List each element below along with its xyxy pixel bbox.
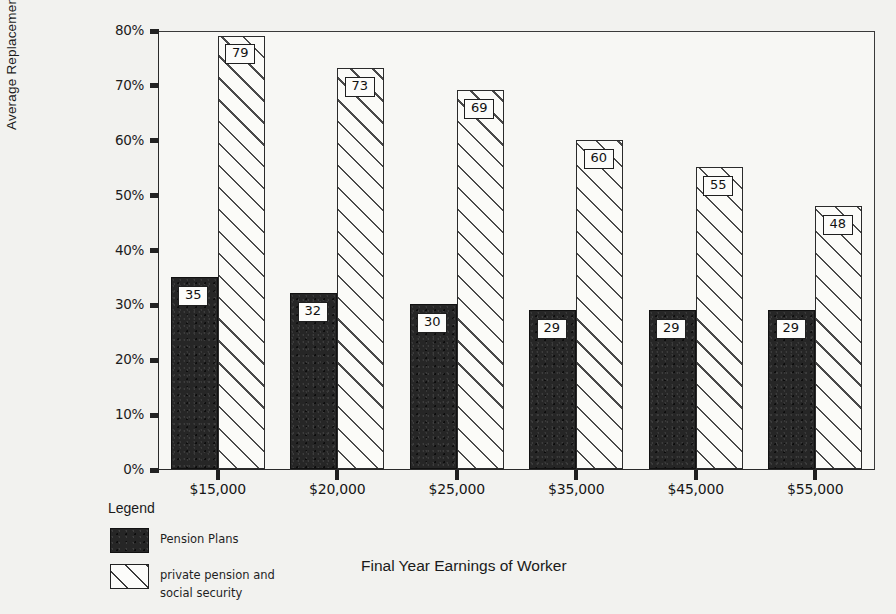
legend-label-pension-plans: Pension Plans [160,530,239,548]
y-axis-title: Average Replacement Rate [4,0,19,130]
value-label: 69 [464,99,494,119]
bar-private-pension-social-security-3 [576,140,623,469]
y-tick-label: 40% [0,242,144,258]
value-label: 60 [584,149,614,169]
x-tick-mark [335,470,339,480]
bar-private-pension-social-security-2 [457,90,504,469]
y-tick-mark [150,138,159,143]
bar-private-pension-social-security-1 [337,68,384,469]
y-tick-label: 30% [0,296,144,312]
value-label: 29 [656,319,686,339]
bar-chart: Average Replacement Rate 0%10%20%30%40%5… [0,0,896,614]
x-tick-mark [694,470,698,480]
value-label: 32 [298,302,328,322]
x-tick-label-3: $35,000 [548,481,605,497]
y-tick-label: 10% [0,406,144,422]
plot-inner [159,32,874,469]
y-tick-mark [150,83,159,88]
y-tick-label: 50% [0,187,144,203]
y-tick-label: 70% [0,77,144,93]
x-tick-mark [455,470,459,480]
legend-title: Legend [108,500,155,516]
y-tick-label: 0% [0,461,144,477]
plot-area [158,31,875,470]
bar-private-pension-social-security-4 [696,167,743,469]
x-tick-label-0: $15,000 [190,481,247,497]
x-tick-label-4: $45,000 [668,481,725,497]
y-tick-label: 80% [0,22,144,38]
y-tick-label: 20% [0,351,144,367]
x-tick-mark [574,470,578,480]
legend-swatch-pension-plans [110,528,149,553]
legend-label-private-pension-social-security: private pension and social security [160,566,275,602]
value-label: 30 [417,313,447,333]
x-tick-label-2: $25,000 [429,481,486,497]
y-tick-label: 60% [0,132,144,148]
value-label: 55 [703,176,733,196]
bar-private-pension-social-security-0 [218,36,265,470]
y-tick-mark [150,303,159,308]
y-tick-mark [150,413,159,418]
y-tick-mark [150,468,159,473]
value-label: 73 [345,77,375,97]
y-tick-mark [150,193,159,198]
x-axis-title: Final Year Earnings of Worker [361,557,567,575]
x-tick-mark [216,470,220,480]
value-label: 79 [225,44,255,64]
x-tick-label-5: $55,000 [787,481,844,497]
x-tick-label-1: $20,000 [309,481,366,497]
legend-swatch-private-pension-social-security [110,564,149,589]
bar-private-pension-social-security-5 [815,206,862,469]
y-tick-mark [150,358,159,363]
y-tick-mark [150,248,159,253]
value-label: 29 [776,319,806,339]
value-label: 48 [823,215,853,235]
x-tick-mark [813,470,817,480]
y-tick-mark [150,29,159,34]
value-label: 35 [178,286,208,306]
value-label: 29 [537,319,567,339]
